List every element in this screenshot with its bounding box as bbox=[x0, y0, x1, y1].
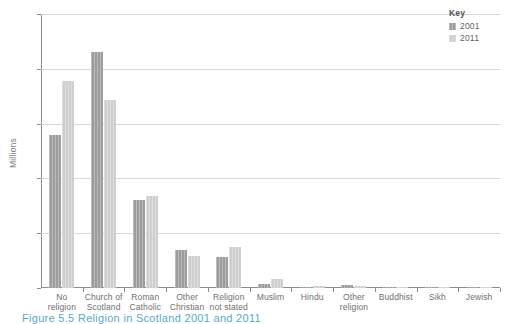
bar bbox=[133, 200, 145, 288]
bar-group bbox=[291, 14, 333, 288]
x-axis-label: OtherChristian bbox=[166, 292, 208, 312]
legend-title: Key bbox=[449, 8, 513, 18]
x-axis-label: Religionnot stated bbox=[208, 292, 250, 312]
bar bbox=[425, 287, 437, 288]
figure-caption: Figure 5.5 Religion in Scotland 2001 and… bbox=[22, 312, 261, 324]
bar bbox=[175, 250, 187, 288]
legend-item-2011: 2011 bbox=[449, 33, 513, 43]
bar-group bbox=[333, 14, 375, 288]
bar-group bbox=[41, 14, 83, 288]
bar-group bbox=[166, 14, 208, 288]
legend-swatch-icon-2001 bbox=[449, 23, 456, 30]
x-axis-label: RomanCatholic bbox=[124, 292, 166, 312]
bar bbox=[480, 287, 492, 288]
bar bbox=[341, 285, 353, 288]
legend-label-2011: 2011 bbox=[460, 33, 479, 43]
bar bbox=[229, 247, 241, 288]
bar-group bbox=[375, 14, 417, 288]
bar bbox=[383, 287, 395, 288]
bar bbox=[188, 256, 200, 288]
x-axis-label: Jewish bbox=[458, 292, 500, 302]
bar bbox=[313, 286, 325, 288]
bar bbox=[271, 279, 283, 288]
bar bbox=[396, 287, 408, 288]
bar bbox=[146, 196, 158, 288]
y-tick-mark bbox=[37, 288, 41, 289]
x-axis-label: Church ofScotland bbox=[83, 292, 125, 312]
x-axis-label: Sikh bbox=[417, 292, 459, 302]
bar-groups bbox=[41, 14, 500, 288]
bar bbox=[354, 286, 366, 288]
legend-swatch-icon-2011 bbox=[449, 35, 456, 42]
x-axis-label: Noreligion bbox=[41, 292, 83, 312]
bar-group bbox=[250, 14, 292, 288]
x-axis-label: Otherreligion bbox=[333, 292, 375, 312]
legend-item-2001: 2001 bbox=[449, 21, 513, 31]
bar-group bbox=[208, 14, 250, 288]
bar-group bbox=[124, 14, 166, 288]
bar-group bbox=[83, 14, 125, 288]
legend-label-2001: 2001 bbox=[460, 21, 480, 31]
bar bbox=[49, 135, 61, 288]
y-axis-title: Millions bbox=[8, 138, 18, 168]
plot-area bbox=[41, 14, 500, 288]
legend: Key 2001 2011 bbox=[449, 8, 513, 45]
bar bbox=[438, 287, 450, 288]
bar bbox=[62, 81, 74, 288]
x-tick-mark bbox=[500, 288, 501, 292]
bar-group bbox=[417, 14, 459, 288]
bar bbox=[216, 257, 228, 288]
bar bbox=[91, 52, 103, 288]
bar-group bbox=[458, 14, 500, 288]
x-axis-label: Buddhist bbox=[375, 292, 417, 302]
x-axis-label: Hindu bbox=[291, 292, 333, 302]
bar bbox=[300, 287, 312, 288]
bar bbox=[104, 100, 116, 289]
bar bbox=[258, 284, 270, 288]
x-axis-label: Muslim bbox=[250, 292, 292, 302]
bar bbox=[467, 287, 479, 288]
